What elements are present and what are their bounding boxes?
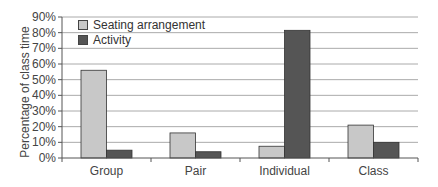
- bar-class-activity: [374, 142, 400, 158]
- y-tick-label: 40%: [32, 88, 56, 102]
- bar-individual-activity: [285, 30, 311, 158]
- x-tick-label: Pair: [185, 164, 206, 178]
- bar-pair-activity: [196, 152, 222, 158]
- bar-group-seating: [81, 70, 107, 158]
- y-tick-label: 30%: [32, 104, 56, 118]
- y-tick-label: 80%: [32, 26, 56, 40]
- y-tick-labels: 0%10%20%30%40%50%60%70%80%90%: [32, 10, 56, 165]
- y-tick-label: 70%: [32, 41, 56, 55]
- x-tick-labels: GroupPairIndividualClass: [90, 164, 389, 178]
- x-tick-label: Group: [90, 164, 124, 178]
- bars: [81, 30, 399, 158]
- legend-swatch-seating: [78, 20, 88, 30]
- y-tick-label: 90%: [32, 10, 56, 24]
- x-tick-label: Individual: [259, 164, 310, 178]
- y-tick-label: 60%: [32, 57, 56, 71]
- bar-class-seating: [348, 125, 374, 158]
- legend-label-activity: Activity: [93, 33, 131, 47]
- bar-group-activity: [107, 150, 133, 158]
- y-axis-label: Percentage of class time: [18, 26, 32, 157]
- legend-swatch-activity: [78, 35, 88, 45]
- legend-item-seating: Seating arrangement: [78, 17, 205, 32]
- y-tick-label: 20%: [32, 120, 56, 134]
- legend-item-activity: Activity: [78, 32, 205, 47]
- legend: Seating arrangement Activity: [78, 17, 205, 47]
- x-tick-label: Class: [358, 164, 388, 178]
- bar-chart: 0%10%20%30%40%50%60%70%80%90% GroupPairI…: [0, 0, 438, 187]
- y-tick-label: 0%: [39, 151, 57, 165]
- y-tick-label: 50%: [32, 73, 56, 87]
- bar-pair-seating: [170, 133, 196, 158]
- bar-individual-seating: [259, 146, 285, 158]
- y-tick-label: 10%: [32, 135, 56, 149]
- legend-label-seating: Seating arrangement: [93, 18, 205, 32]
